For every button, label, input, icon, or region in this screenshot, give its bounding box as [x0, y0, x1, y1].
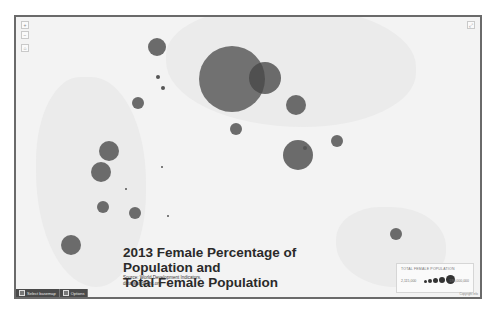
- bubble-pakistan-iran[interactable]: [148, 38, 166, 56]
- bubble-china[interactable]: [249, 62, 281, 94]
- source-note: Source: World Development Indicators, da…: [123, 275, 201, 287]
- bubble-myanmar-thailand[interactable]: [286, 95, 306, 115]
- legend-title: TOTAL FEMALE POPULATION: [401, 267, 455, 271]
- bubble-small[interactable]: [303, 146, 307, 150]
- zoom-out-button[interactable]: −: [21, 31, 29, 39]
- bubble-kenya-tanzania[interactable]: [91, 162, 111, 182]
- options-button[interactable]: Options: [60, 289, 89, 297]
- bubble-small[interactable]: [161, 86, 165, 90]
- select-basemap-label: Select basemap: [27, 291, 56, 296]
- size-legend: TOTAL FEMALE POPULATION 2,115,000 590,00…: [396, 263, 474, 293]
- map-credit[interactable]: Copyright info: [459, 292, 478, 296]
- title-line-1: 2013 Female Percentage of Population and: [123, 245, 363, 275]
- bubble-small[interactable]: [167, 215, 169, 217]
- gear-icon: [63, 290, 69, 296]
- bubble-madagascar[interactable]: [129, 207, 141, 219]
- bubble-philippines[interactable]: [331, 135, 343, 147]
- fullscreen-button[interactable]: ⤢: [467, 21, 475, 29]
- legend-max-label: 590,000,000: [450, 279, 469, 283]
- select-basemap-button[interactable]: Select basemap: [16, 289, 60, 297]
- legend-circle-3: [433, 278, 438, 283]
- bubble-mozambique[interactable]: [97, 201, 109, 213]
- bubble-small[interactable]: [125, 188, 127, 190]
- zoom-controls: + − ⌂: [21, 21, 28, 54]
- map-frame[interactable]: + − ⌂ ⤢ 2013 Female Percentage of Popula…: [14, 15, 482, 299]
- bubble-small[interactable]: [161, 166, 163, 168]
- bubble-yemen-oman[interactable]: [132, 97, 144, 109]
- map-toolbar: Select basemap Options: [16, 289, 88, 297]
- legend-circle-2: [428, 279, 432, 283]
- legend-min-label: 2,115,000: [401, 279, 416, 283]
- bubble-ethiopia[interactable]: [99, 141, 119, 161]
- legend-circle-1: [424, 280, 427, 283]
- options-label: Options: [71, 291, 85, 296]
- legend-circle-4: [439, 277, 445, 283]
- zoom-in-button[interactable]: +: [21, 21, 29, 29]
- bubble-small[interactable]: [156, 75, 160, 79]
- bubble-australia[interactable]: [390, 228, 402, 240]
- basemap-icon: [19, 290, 25, 296]
- bubble-indonesia[interactable]: [283, 140, 313, 170]
- bubble-south-africa[interactable]: [61, 235, 81, 255]
- home-button[interactable]: ⌂: [21, 44, 29, 52]
- source-line-2: data.worldbank.org: [123, 281, 201, 287]
- bubble-sri-lanka[interactable]: [230, 123, 242, 135]
